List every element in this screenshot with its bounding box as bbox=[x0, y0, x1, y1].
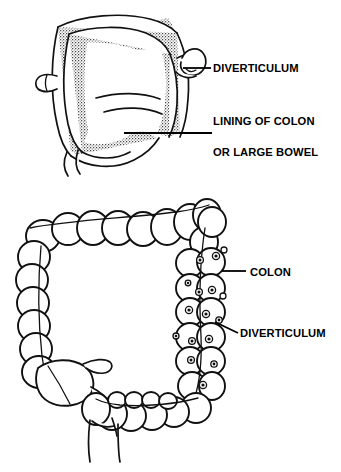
diverticulum-figure: DIVERTICULUM LINING OF COLON OR LARGE BO… bbox=[0, 0, 341, 472]
label-diverticulum-upper: DIVERTICULUM bbox=[213, 62, 299, 74]
label-or-large-bowel: OR LARGE BOWEL bbox=[213, 146, 318, 158]
label-diverticulum-lower: DIVERTICULUM bbox=[240, 327, 326, 339]
rectum-left-wall bbox=[89, 420, 91, 462]
label-colon: COLON bbox=[250, 266, 291, 278]
label-lining-of-colon: LINING OF COLON bbox=[213, 115, 315, 127]
figure-canvas: DIVERTICULUM LINING OF COLON OR LARGE BO… bbox=[0, 0, 341, 472]
